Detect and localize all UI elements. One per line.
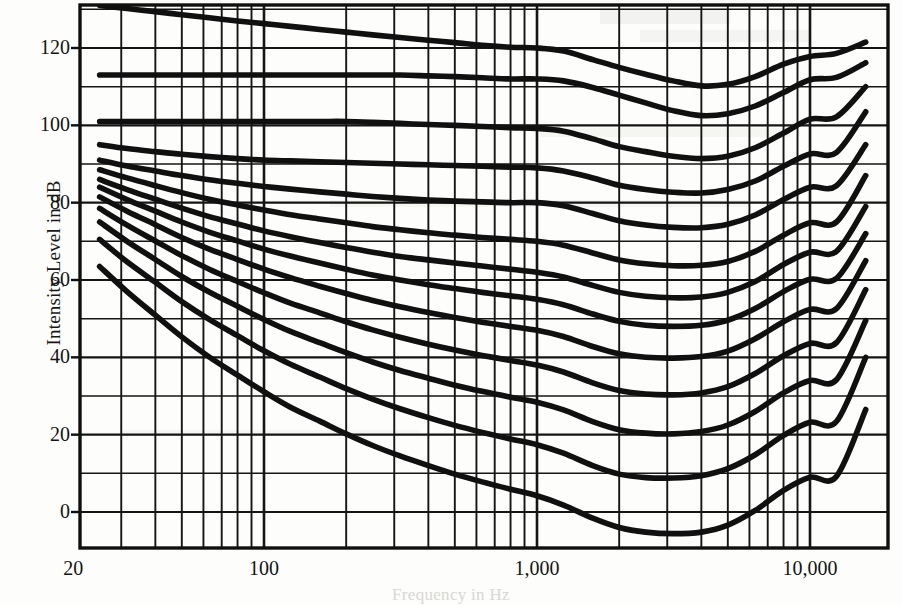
x-tick-label: 20 — [13, 558, 133, 578]
x-tick-label: 100 — [204, 558, 324, 578]
y-axis-title: Intensity Level in dB — [43, 113, 65, 413]
x-tick-label: 10,000 — [750, 558, 870, 578]
y-tick-label: 40 — [22, 346, 70, 366]
x-axis-title: Frequency in Hz — [0, 585, 902, 605]
x-tick-label: 1,000 — [477, 558, 597, 578]
y-tick-label: 20 — [22, 424, 70, 444]
y-tick-label: 80 — [22, 192, 70, 212]
y-tick-label: 0 — [22, 501, 70, 521]
y-tick-label: 120 — [22, 37, 70, 57]
y-tick-label: 60 — [22, 269, 70, 289]
y-tick-label: 100 — [22, 114, 70, 134]
